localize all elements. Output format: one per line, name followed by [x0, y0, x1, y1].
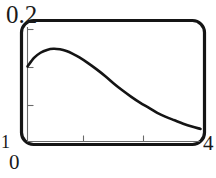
y-axis-ticks — [28, 30, 34, 106]
chart-figure: 0.2 1 0 4 — [0, 0, 216, 178]
x-axis-min-label: 0 — [9, 152, 20, 173]
y-axis-max-label: 0.2 — [6, 2, 37, 27]
x-axis-ticks — [84, 136, 144, 142]
data-curve — [28, 49, 201, 129]
y-axis-min-label: 1 — [1, 133, 10, 151]
x-axis-max-label: 4 — [203, 133, 216, 154]
